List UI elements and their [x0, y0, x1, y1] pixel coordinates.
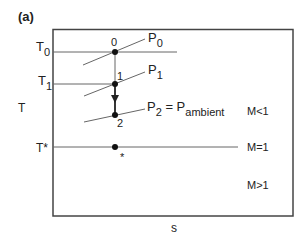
point-label-1: 1 — [117, 70, 123, 82]
state-point-star — [112, 144, 118, 150]
region-label-subsonic: M<1 — [247, 105, 269, 117]
isobar-label-p1: P1 — [148, 62, 163, 81]
y-axis-label: T — [18, 101, 26, 115]
state-point-0 — [112, 49, 118, 55]
arrow-down-icon — [111, 95, 119, 103]
region-label-sonic: M=1 — [247, 141, 269, 153]
point-label-0: 0 — [111, 36, 117, 48]
ts-diagram: (a) 0 1 2 * P0 P1 P2 = Pambient T0 T1 T*… — [0, 0, 308, 242]
isobar-label-p2: P2 = Pambient — [147, 99, 224, 118]
isobar-label-p0: P0 — [148, 30, 163, 49]
point-label-2: 2 — [117, 117, 123, 129]
region-label-supersonic: M>1 — [247, 179, 269, 191]
panel-label: (a) — [18, 9, 34, 24]
x-axis-label: s — [171, 221, 177, 235]
point-label-star: * — [120, 151, 125, 163]
temp-label-tstar: T* — [36, 141, 48, 155]
temp-label-t1: T1 — [38, 73, 52, 92]
temp-label-t0: T0 — [36, 39, 50, 58]
